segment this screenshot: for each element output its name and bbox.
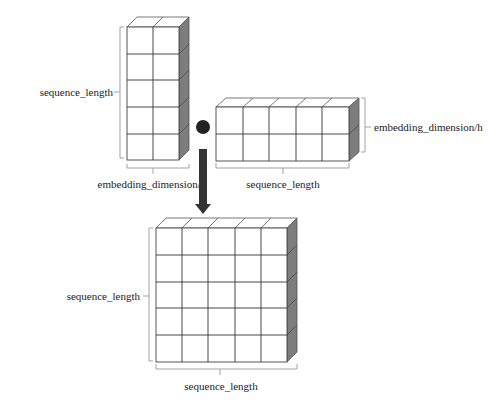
matrix-result-col-brace [156,364,297,369]
matrix-query-row-brace [120,27,124,158]
matrix-result-row-label: sequence_length [67,290,141,302]
attention-matmul-diagram: sequence_length embedding_dimension/h em… [0,0,491,403]
dot-product-operator-icon [196,120,210,134]
matrix-query-side-face [179,17,189,160]
matrix-query-row-label: sequence_length [40,86,114,98]
matrix-key-row-brace [361,98,365,152]
matrix-result: sequence_length sequence_length [67,218,297,392]
matrix-key-col-brace [216,163,349,168]
matrix-result-front-face [156,228,287,362]
matrix-result-col-label: sequence_length [184,380,258,392]
matrix-key-row-label: embedding_dimension/h [374,121,483,133]
matrix-query-col-brace [127,164,189,168]
matrix-query-col-label: embedding_dimension/h [98,178,207,190]
matrix-key-transposed: embedding_dimension/h sequence_length [216,98,483,190]
matrix-key-col-label: sequence_length [246,178,320,190]
matrix-key-top-face [216,98,359,107]
matrix-query: sequence_length embedding_dimension/h [40,17,207,190]
matrix-result-top-face [156,218,297,228]
matrix-result-side-face [287,218,297,362]
matrix-result-row-brace [149,228,153,361]
